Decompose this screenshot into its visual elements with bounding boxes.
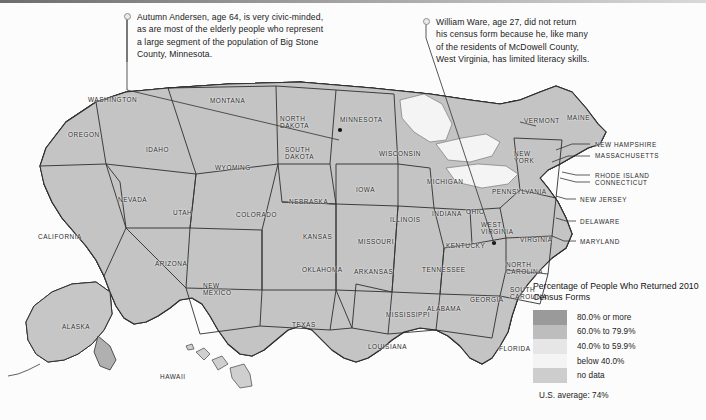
state-label-new-york: NEW YORK <box>514 150 534 164</box>
legend-swatch <box>533 354 567 369</box>
state-label-tennessee: TENNESSEE <box>422 266 466 273</box>
state-label-georgia: GEORGIA <box>470 296 504 303</box>
state-label-vermont: VERMONT <box>524 117 560 124</box>
page-top-rule <box>0 0 706 3</box>
state-label-hawaii: HAWAII <box>160 373 186 380</box>
legend-row: 80.0% or more <box>533 310 705 325</box>
state-label-alaska: ALASKA <box>62 323 90 330</box>
callout-autumn-andersen: Autumn Andersen, age 64, is very civic-m… <box>137 11 395 61</box>
state-label-utah: UTAH <box>173 209 192 216</box>
state-label-indiana: INDIANA <box>432 210 462 217</box>
legend-row: 40.0% to 59.9% <box>533 339 705 354</box>
state-label-rhode-island: RHODE ISLAND <box>595 172 650 179</box>
state-label-california: CALIFORNIA <box>38 233 82 240</box>
legend-swatch <box>533 339 567 354</box>
state-label-delaware: DELAWARE <box>580 218 620 225</box>
state-label-pennsylvania: PENNSYLVANIA <box>492 188 547 195</box>
state-label-illinois: ILLINOIS <box>390 216 421 223</box>
state-label-michigan: MICHIGAN <box>427 178 463 185</box>
legend-title: Percentage of People Who Returned 2010 C… <box>533 281 705 303</box>
state-label-south-dakota: SOUTH DAKOTA <box>285 146 314 160</box>
state-label-virginia: VIRGINIA <box>520 236 552 243</box>
legend-swatch <box>533 368 567 383</box>
state-label-arkansas: ARKANSAS <box>354 268 393 275</box>
state-label-kansas: KANSAS <box>303 233 332 240</box>
state-label-west-virginia: WEST VIRGINIA <box>481 221 513 235</box>
state-label-maryland: MARYLAND <box>580 238 620 245</box>
state-label-new-jersey: NEW JERSEY <box>580 196 627 203</box>
point-mcdowell-county <box>492 241 496 245</box>
state-label-iowa: IOWA <box>356 186 375 193</box>
state-label-louisiana: LOUISIANA <box>368 343 407 350</box>
point-big-stone-county <box>338 128 342 132</box>
callout-anchor-william-ware <box>423 18 430 25</box>
state-label-north-carolina: NORTH CAROLINA <box>506 261 543 275</box>
legend-label: 80.0% or more <box>577 313 631 322</box>
legend-row: no data <box>533 368 705 383</box>
state-label-florida: FLORIDA <box>499 345 531 352</box>
state-label-connecticut: CONNECTICUT <box>595 179 648 186</box>
state-label-kentucky: KENTUCKY <box>446 242 485 249</box>
state-label-washington: WASHINGTON <box>88 96 137 103</box>
state-label-massachusetts: MASSACHUSETTS <box>595 152 659 159</box>
state-label-ohio: OHIO <box>466 208 485 215</box>
state-label-maine: MAINE <box>567 114 590 121</box>
map-figure: WASHINGTONOREGONIDAHOMONTANANORTH DAKOTA… <box>0 0 706 420</box>
state-label-colorado: COLORADO <box>236 211 277 218</box>
state-label-nevada: NEVADA <box>118 196 147 203</box>
legend-swatch <box>533 325 567 340</box>
state-label-oregon: OREGON <box>68 131 100 138</box>
state-label-minnesota: MINNESOTA <box>340 116 382 123</box>
state-label-new-hampshire: NEW HAMPSHIRE <box>595 141 657 148</box>
state-label-montana: MONTANA <box>210 97 245 104</box>
legend-label: below 40.0% <box>577 357 624 366</box>
state-label-idaho: IDAHO <box>146 146 169 153</box>
state-label-new-mexico: NEW MEXICO <box>203 282 232 296</box>
state-label-nebraska: NEBRASKA <box>289 198 328 205</box>
legend-label: 60.0% to 79.9% <box>577 327 636 336</box>
state-label-texas: TEXAS <box>292 321 316 328</box>
conus-landmass <box>40 82 606 364</box>
state-label-mississippi: MISSISSIPPI <box>386 311 430 318</box>
legend-items: 80.0% or more60.0% to 79.9%40.0% to 59.9… <box>533 310 705 383</box>
legend-row: below 40.0% <box>533 354 705 369</box>
state-label-alabama: ALABAMA <box>427 305 461 312</box>
callout-anchor-autumn-andersen <box>124 13 131 20</box>
callout-william-ware: William Ware, age 27, did not return his… <box>436 16 688 66</box>
state-label-wisconsin: WISCONSIN <box>379 150 421 157</box>
state-label-oklahoma: OKLAHOMA <box>302 266 343 273</box>
legend-average-note: U.S. average: 74% <box>539 391 705 400</box>
state-label-wyoming: WYOMING <box>215 164 251 171</box>
state-label-missouri: MISSOURI <box>358 238 394 245</box>
state-label-arizona: ARIZONA <box>155 260 187 267</box>
legend-label: 40.0% to 59.9% <box>577 342 636 351</box>
legend-label: no data <box>577 371 605 380</box>
legend-swatch <box>533 310 567 325</box>
state-label-north-dakota: NORTH DAKOTA <box>280 115 309 129</box>
map-legend: Percentage of People Who Returned 2010 C… <box>533 281 705 400</box>
legend-row: 60.0% to 79.9% <box>533 325 705 340</box>
